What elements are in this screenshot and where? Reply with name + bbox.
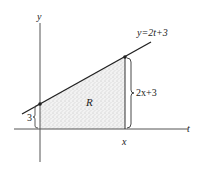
line-equation-label: y=2t+3 [136, 27, 168, 38]
right-height-label: 2x+3 [136, 87, 157, 98]
brace-right-height [127, 58, 134, 128]
t-axis-label: t [187, 123, 190, 134]
x-marker-label: x [121, 136, 127, 147]
region-label: R [85, 96, 93, 108]
shaded-region-r [40, 57, 125, 129]
intercept-point [38, 102, 42, 106]
intercept-height-label: 3 [27, 112, 32, 123]
y-axis-label: y [36, 11, 42, 22]
region-diagram: y t y=2t+3 R 2x+3 3 x [0, 0, 201, 169]
brace-intercept-height [33, 105, 38, 128]
endpoint-at-x [123, 55, 127, 59]
